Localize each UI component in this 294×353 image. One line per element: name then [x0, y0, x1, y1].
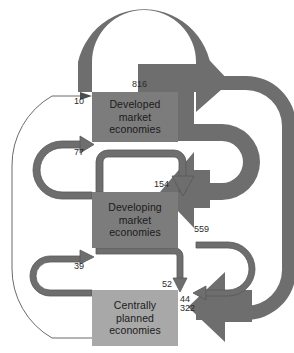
flow-arrow-39: [30, 250, 94, 296]
node-developed-market-economies[interactable]: Developed market economies: [92, 92, 178, 142]
flow-arrow-77: [33, 136, 94, 199]
trade-flow-diagram: Developed market economies Developing ma…: [0, 0, 294, 353]
node-developing-line1: Developing: [108, 201, 162, 214]
node-developed-line1: Developed: [109, 98, 160, 111]
flow-label-39: 39: [58, 262, 84, 272]
node-developed-line2: market: [119, 111, 152, 124]
flow-label-52: 52: [146, 280, 172, 290]
flow-arrow-52: [96, 248, 187, 292]
node-developing-market-economies[interactable]: Developing market economies: [92, 192, 178, 248]
flow-label-559: 559: [183, 225, 209, 235]
node-centrally-planned-economies[interactable]: Centrally planned economies: [92, 290, 178, 346]
node-developing-line3: economies: [109, 226, 161, 239]
node-centrally-line1: Centrally: [114, 299, 156, 312]
flow-label-154: 154: [143, 180, 169, 190]
node-developed-line3: economies: [109, 123, 161, 136]
node-centrally-line3: economies: [109, 324, 161, 337]
node-developing-line2: market: [119, 214, 152, 227]
node-centrally-line2: planned: [116, 312, 154, 325]
flow-label-10: 10: [62, 97, 84, 107]
flow-arrow-10: [10, 92, 92, 340]
flow-label-77: 77: [58, 148, 84, 158]
flow-label-816: 816: [121, 80, 147, 90]
flow-label-322: 322: [180, 304, 206, 314]
